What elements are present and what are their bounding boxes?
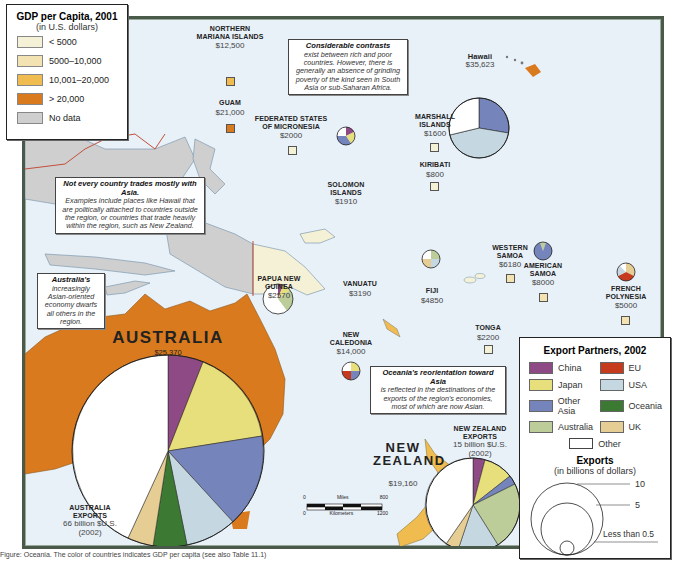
label-american-samoa: AMERICAN SAMOA $8000 (520, 262, 566, 288)
label-png: PAPUA NEW GUINEA $2570 (251, 275, 307, 301)
gdp-marker-micronesia (288, 146, 297, 155)
swatch (17, 36, 43, 48)
swatch (600, 362, 624, 374)
gdp-marker-northern-mariana (226, 77, 235, 86)
swatch (17, 55, 43, 67)
legend-item-uk: UK (600, 421, 671, 433)
label-australia-gdp: $25,370 (143, 349, 193, 357)
solomon-export-pie (337, 127, 355, 145)
export-partners-legend: Export Partners, 2002 China EU Japan USA… (519, 337, 671, 559)
java-landmass (45, 254, 175, 275)
label-french-polynesia: FRENCH POLYNESIA $5000 (599, 285, 653, 311)
legend-item-other: Other (520, 438, 670, 449)
label-kiribati: KIRIBATI $800 (410, 161, 460, 179)
legend-item-australia: Australia (529, 421, 600, 433)
swatch (529, 400, 553, 412)
label-new-zealand-gdp: $19,160 (375, 478, 431, 489)
swatch (17, 112, 43, 124)
timor-landmass (105, 281, 150, 295)
callout-not-every-country: Not every country trades mostly with Asi… (55, 177, 205, 234)
new-britain-landmass (300, 229, 335, 243)
gdp-marker-french-polynesia (621, 316, 630, 325)
legend-item-japan: Japan (529, 379, 600, 391)
callout-considerable-contrasts: Considerable contrasts exist between ric… (288, 39, 408, 95)
swatch (17, 74, 43, 86)
gdp-marker-american-samoa (539, 293, 548, 302)
size-label-5: 5 (635, 500, 640, 510)
label-australia: AUSTRALIA (103, 329, 233, 346)
label-australia-exports: AUSTRALIA EXPORTS 66 billion $U.S. (2002… (55, 504, 125, 538)
gdp-legend-item: < 5000 (17, 32, 127, 51)
export-size-circles (520, 466, 670, 556)
label-tonga: TONGA $2200 (468, 324, 508, 342)
label-guam: GUAM $21,000 (205, 99, 255, 117)
american-samoa-export-pie (534, 242, 552, 260)
new-caledonia-landmass (383, 319, 400, 337)
label-new-zealand: NEW ZEALAND (373, 441, 433, 467)
callout-oceania-reorientation: Oceania's reorientation toward Asia is r… (370, 366, 506, 414)
gdp-marker-guam (226, 124, 235, 133)
gdp-legend: GDP per Capita, 2001 (in U.S. dollars) <… (6, 4, 128, 140)
label-vanuatu: VANUATU $3190 (337, 280, 383, 298)
legend-item-other-asia: Other Asia (529, 396, 600, 416)
scale-bar-miles-label: 0 Miles 800 (303, 495, 388, 501)
gdp-legend-title: GDP per Capita, 2001 (7, 11, 127, 22)
label-fiji: FIJI $4850 (417, 287, 447, 305)
french-polynesia-export-pie (617, 263, 635, 281)
gdp-legend-item: No data (17, 108, 127, 127)
swatch (529, 379, 553, 391)
size-label-less-than: Less than 0.5 (603, 529, 654, 539)
label-micronesia: FEDERATED STATES OF MICRONESIA $2000 (250, 115, 332, 141)
swatch (600, 379, 624, 391)
swatch (569, 438, 593, 449)
swatch (17, 93, 43, 105)
new-caledonia-export-pie (342, 362, 360, 380)
swatch (529, 421, 553, 433)
label-nz-exports: NEW ZEALAND EXPORTS 15 billion $U.S. (20… (445, 425, 515, 459)
hawaii-landmass (525, 64, 541, 77)
gdp-marker-tonga (484, 345, 493, 354)
gdp-legend-item: 5000–10,000 (17, 51, 127, 70)
export-legend-title: Export Partners, 2002 (520, 345, 670, 356)
swatch (529, 362, 553, 374)
gdp-marker-kiribati (430, 182, 439, 191)
scale-bar-km-label: 0 Kilometers 1200 (303, 511, 388, 517)
legend-item-eu: EU (600, 362, 671, 374)
nz-export-pie (425, 458, 520, 546)
fiji-export-pie (422, 250, 440, 268)
legend-item-usa: USA (600, 379, 671, 391)
swatch (600, 400, 624, 412)
label-hawaii: Hawaii $35,623 (455, 53, 505, 70)
figure-caption: Figure: Oceania. The color of countries … (0, 551, 673, 561)
gdp-legend-item: > 20,000 (17, 89, 127, 108)
exports-size-title: Exports (520, 455, 670, 466)
gdp-legend-subtitle: (in U.S. dollars) (7, 22, 127, 32)
gdp-legend-item: 10,001–20,000 (17, 70, 127, 89)
legend-item-oceania: Oceania (600, 396, 671, 416)
gdp-marker-marshall (430, 143, 439, 152)
label-northern-mariana: NORTHERN MARIANA ISLANDS $12,500 (195, 25, 265, 51)
callout-australia: Australia's increasingly Asian-oriented … (37, 273, 105, 329)
swatch (600, 421, 624, 433)
gdp-marker-western-samoa (506, 274, 515, 283)
label-solomon: SOLOMON ISLANDS $1910 (319, 181, 373, 207)
label-marshall: MARSHALL ISLANDS $1600 (405, 113, 465, 139)
label-new-caledonia: NEW CALEDONIA $14,000 (327, 331, 375, 357)
size-label-10: 10 (635, 479, 645, 489)
legend-item-china: China (529, 362, 600, 374)
